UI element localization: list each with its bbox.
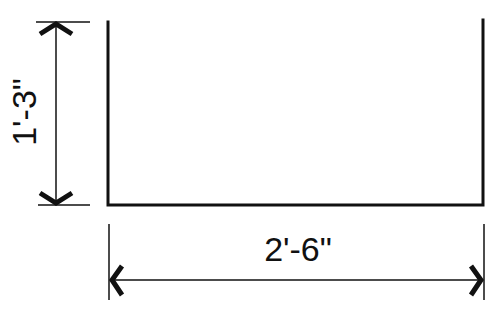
height-label: 1'-3" [5, 78, 43, 146]
width-dimension: 2'-6" [109, 224, 484, 300]
dimension-drawing: 1'-3" 2'-6" [0, 0, 488, 313]
height-dimension: 1'-3" [5, 22, 90, 205]
u-shape-outline [108, 20, 483, 205]
width-label: 2'-6" [264, 230, 332, 268]
